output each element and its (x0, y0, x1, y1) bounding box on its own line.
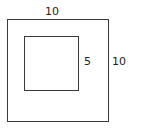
inner-square (24, 36, 79, 91)
outer-right-label: 10 (112, 56, 126, 67)
outer-top-label: 10 (45, 6, 59, 17)
inner-side-label: 5 (84, 56, 91, 67)
